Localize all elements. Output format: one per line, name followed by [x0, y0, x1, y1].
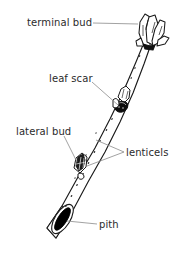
label-terminal-bud: terminal bud [27, 17, 92, 28]
twig-diagram: terminal bud leaf scar lateral bud lenti… [0, 0, 184, 255]
label-leaf-scar: leaf scar [49, 73, 93, 84]
leader-leaf-scar [92, 82, 118, 105]
label-pith: pith [99, 219, 119, 230]
leader-lateral-bud [64, 136, 77, 162]
leader-pith [67, 221, 97, 224]
leaf-scar-shape [113, 86, 130, 112]
terminal-bud-shape [136, 14, 169, 50]
leader-terminal-bud [93, 23, 138, 24]
label-lenticels: lenticels [126, 147, 169, 158]
label-lateral-bud: lateral bud [16, 126, 71, 137]
